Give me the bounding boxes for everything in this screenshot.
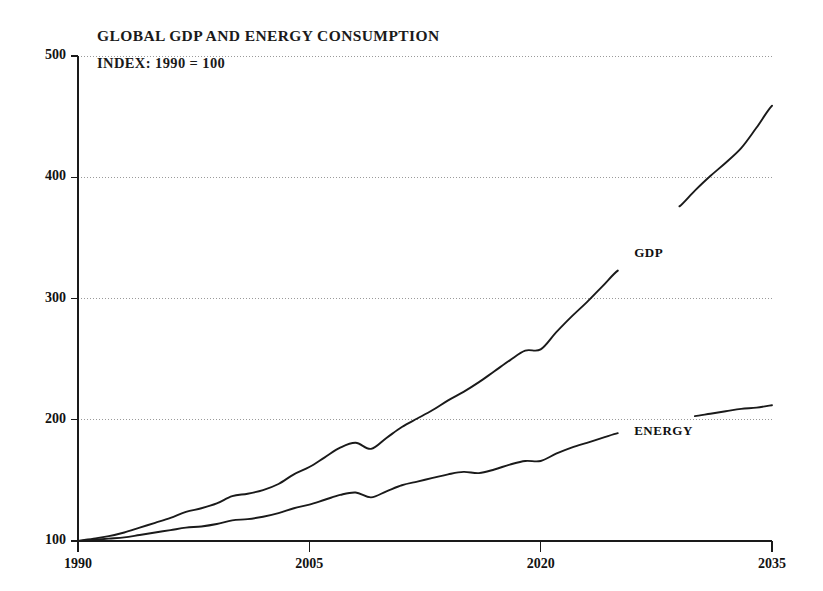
x-tick-label: 1990 bbox=[46, 556, 110, 572]
x-tick-label: 2005 bbox=[277, 556, 341, 572]
x-tick-label: 2020 bbox=[509, 556, 573, 572]
x-tick-marks bbox=[78, 541, 772, 552]
y-tick-label: 200 bbox=[22, 411, 66, 427]
chart-figure: GLOBAL GDP AND ENERGY CONSUMPTION INDEX:… bbox=[0, 0, 823, 591]
y-tick-marks bbox=[71, 56, 78, 541]
series-label-energy: ENERGY bbox=[631, 423, 696, 439]
series-label-gdp: GDP bbox=[631, 245, 666, 261]
plot-area bbox=[0, 0, 823, 591]
y-tick-label: 500 bbox=[22, 47, 66, 63]
y-tick-label: 400 bbox=[22, 168, 66, 184]
gridlines bbox=[78, 56, 772, 420]
series-lines bbox=[78, 106, 772, 541]
y-tick-label: 300 bbox=[22, 290, 66, 306]
y-tick-label: 100 bbox=[22, 532, 66, 548]
axis-frame bbox=[78, 56, 772, 541]
x-tick-label: 2035 bbox=[740, 556, 804, 572]
